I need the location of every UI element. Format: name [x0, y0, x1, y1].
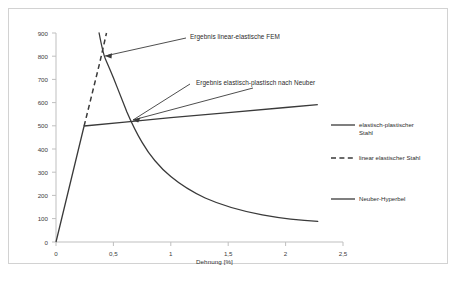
x-tick-marks	[56, 242, 343, 246]
annotation-label-neuber: Ergebnis elastisch-plastisch nach Neuber	[196, 79, 315, 86]
x-tick-label: 2,5	[333, 250, 353, 257]
y-tick-marks	[52, 33, 56, 242]
annotation-arrow-neuber	[133, 84, 253, 123]
y-tick-label: 500	[26, 122, 48, 129]
y-tick-label: 700	[26, 76, 48, 83]
series-neuber-hyperbel	[99, 33, 318, 221]
y-tick-label: 900	[26, 30, 48, 37]
y-tick-label: 200	[26, 192, 48, 199]
x-tick-label: 0	[46, 250, 66, 257]
series-elastisch-plastischer-stahl	[56, 105, 318, 242]
chart-figure: Spannung [MPa] Dehnung [%] 900 800 700 6…	[0, 0, 460, 282]
legend-label-linear-elastischer-stahl: linear elastischer Stahl	[359, 154, 420, 162]
annotation-label-fem: Ergebnis linear-elastische FEM	[190, 33, 280, 40]
y-tick-label: 0	[26, 239, 48, 246]
legend-label-elastisch-plastischer-stahl: elastisch-plastischer Stahl	[359, 121, 414, 137]
y-tick-label: 300	[26, 169, 48, 176]
y-tick-label: 800	[26, 53, 48, 60]
y-tick-label: 400	[26, 146, 48, 153]
x-tick-label: 2	[276, 250, 296, 257]
y-tick-label: 600	[26, 99, 48, 106]
chart-plot-area	[0, 0, 460, 282]
x-tick-label: 1	[161, 250, 181, 257]
annotation-arrow-fem	[105, 38, 186, 59]
series-linear-elastischer-stahl	[84, 33, 106, 126]
y-tick-label: 100	[26, 215, 48, 222]
x-axis-title: Dehnung [%]	[196, 258, 233, 265]
legend-label-neuber-hyperbel: Neuber-Hyperbel	[359, 195, 405, 203]
x-tick-label: 0,5	[103, 250, 123, 257]
x-tick-label: 1,5	[218, 250, 238, 257]
